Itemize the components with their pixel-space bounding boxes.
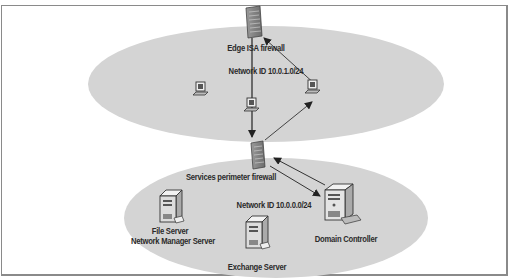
file-server-icon bbox=[160, 190, 184, 223]
file-server-label-line1: File Server bbox=[131, 226, 209, 236]
domain-controller-label: Domain Controller bbox=[314, 234, 379, 244]
exchange-server-label: Exchange Server bbox=[226, 262, 289, 272]
edge-firewall-label: Edge ISA firewall bbox=[224, 43, 289, 53]
services-firewall-icon bbox=[251, 141, 265, 169]
edge-firewall-icon bbox=[246, 6, 262, 38]
file-server-label: File Server Network Manager Server bbox=[131, 226, 209, 246]
services-firewall-label: Services perimeter firewall bbox=[184, 172, 278, 182]
network-diagram bbox=[0, 0, 511, 279]
exchange-server-icon bbox=[246, 216, 270, 249]
perimeter-network-id-label: Network ID 10.0.1.0/24 bbox=[222, 66, 310, 76]
file-server-label-line2: Network Manager Server bbox=[131, 236, 209, 246]
services-network-id-label: Network ID 10.0.0.0/24 bbox=[232, 200, 317, 210]
